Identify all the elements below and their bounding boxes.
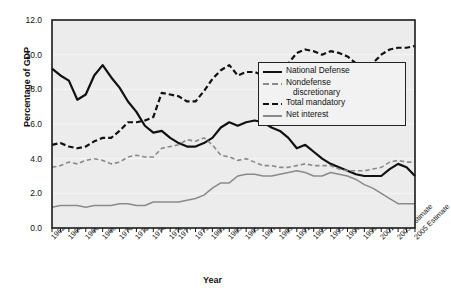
legend-label: Nondefensediscretionary	[286, 78, 340, 97]
legend-label-continued: discretionary	[286, 88, 340, 98]
legend-key-icon	[263, 111, 282, 121]
legend-label: Total mandatory	[286, 98, 345, 108]
legend-item: Net interest	[263, 110, 401, 121]
legend-item: Nondefensediscretionary	[263, 78, 401, 97]
legend-key-icon	[263, 79, 282, 89]
chart-legend: National DefenseNondefensediscretionaryT…	[258, 62, 406, 126]
legend-key-icon	[263, 67, 282, 77]
legend-item: Total mandatory	[263, 98, 401, 109]
legend-label: National Defense	[286, 66, 350, 76]
legend-item: National Defense	[263, 66, 401, 77]
legend-label: Net interest	[286, 110, 328, 120]
legend-key-icon	[263, 99, 282, 109]
